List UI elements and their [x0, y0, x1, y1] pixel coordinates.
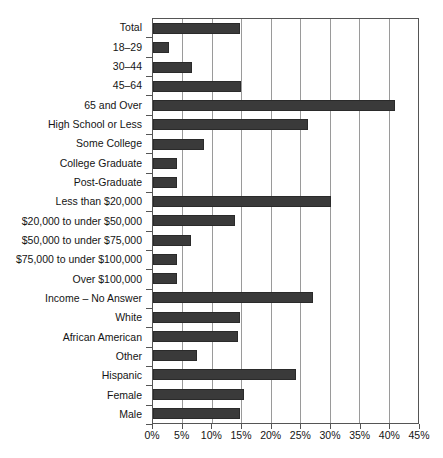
- bar-row: [153, 96, 418, 115]
- bar-row: [153, 77, 418, 96]
- y-axis-label: Some College: [0, 134, 148, 153]
- y-axis-label: Over $100,000: [0, 269, 148, 288]
- x-axis-label: 30%: [319, 430, 340, 441]
- y-axis-tick: [146, 57, 152, 58]
- y-axis-label: Income – No Answer: [0, 289, 148, 308]
- bar-row: [153, 57, 418, 76]
- bar-row: [153, 154, 418, 173]
- y-axis-tick: [146, 95, 152, 96]
- bar-row: [153, 288, 418, 307]
- bar-row: [153, 384, 418, 403]
- y-axis-label: White: [0, 308, 148, 327]
- bar: [153, 81, 241, 92]
- bar-row: [153, 173, 418, 192]
- bar: [153, 158, 177, 169]
- bar-row: [153, 365, 418, 384]
- y-axis-tick: [146, 134, 152, 135]
- bar: [153, 408, 240, 419]
- bar: [153, 119, 308, 130]
- bar: [153, 42, 169, 53]
- y-axis-tick: [146, 250, 152, 251]
- y-axis-tick: [146, 153, 152, 154]
- y-axis-label: Less than $20,000: [0, 192, 148, 211]
- bar: [153, 100, 395, 111]
- bar-row: [153, 134, 418, 153]
- y-axis-tick: [146, 76, 152, 77]
- x-axis-label: 20%: [260, 430, 281, 441]
- y-axis-tick: [146, 115, 152, 116]
- y-axis-label: African American: [0, 327, 148, 346]
- bar-row: [153, 269, 418, 288]
- y-axis-label: $20,000 to under $50,000: [0, 211, 148, 230]
- y-axis-label: Total: [0, 18, 148, 37]
- bar-row: [153, 346, 418, 365]
- bar: [153, 177, 177, 188]
- bar: [153, 273, 177, 284]
- bar-row: [153, 38, 418, 57]
- bar: [153, 235, 191, 246]
- bar: [153, 62, 192, 73]
- bar: [153, 215, 235, 226]
- bar-row: [153, 250, 418, 269]
- bar-row: [153, 192, 418, 211]
- y-axis-label: High School or Less: [0, 115, 148, 134]
- bar-row: [153, 404, 418, 423]
- y-axis-tick: [146, 327, 152, 328]
- y-axis-label: Other: [0, 347, 148, 366]
- y-axis-tick: [146, 347, 152, 348]
- y-axis-label: Hispanic: [0, 366, 148, 385]
- bar-row: [153, 308, 418, 327]
- x-axis-tick-labels: 0%5%10%15%20%25%30%35%40%45%: [0, 430, 443, 446]
- y-axis-category-labels: Total18–2930–4445–6465 and OverHigh Scho…: [0, 18, 148, 424]
- y-axis-label: 18–29: [0, 37, 148, 56]
- y-axis-tick: [146, 192, 152, 193]
- y-axis-label: $50,000 to under $75,000: [0, 231, 148, 250]
- bar: [153, 331, 238, 342]
- y-axis-tick: [146, 211, 152, 212]
- bar-series: [153, 19, 418, 423]
- bar-row: [153, 211, 418, 230]
- y-axis-tick: [146, 308, 152, 309]
- x-axis-label: 15%: [230, 430, 251, 441]
- bar: [153, 254, 177, 265]
- y-axis-label: 30–44: [0, 57, 148, 76]
- x-axis-label: 35%: [349, 430, 370, 441]
- bar: [153, 312, 240, 323]
- horizontal-bar-chart: Total18–2930–4445–6465 and OverHigh Scho…: [0, 0, 443, 458]
- bar-row: [153, 19, 418, 38]
- y-axis-label: Female: [0, 385, 148, 404]
- y-axis-tick: [146, 385, 152, 386]
- y-axis-tick: [146, 289, 152, 290]
- bar: [153, 23, 240, 34]
- y-axis-tick: [146, 405, 152, 406]
- y-axis-label: College Graduate: [0, 153, 148, 172]
- y-axis-tick: [146, 366, 152, 367]
- x-axis-label: 10%: [201, 430, 222, 441]
- y-axis-tick: [146, 37, 152, 38]
- bar-row: [153, 231, 418, 250]
- x-axis-label: 5%: [174, 430, 189, 441]
- bar: [153, 139, 204, 150]
- y-axis-tick: [146, 269, 152, 270]
- x-axis-label: 25%: [290, 430, 311, 441]
- plot-area: [152, 18, 419, 424]
- x-axis-label: 45%: [408, 430, 429, 441]
- y-axis-tick: [146, 173, 152, 174]
- bar: [153, 369, 296, 380]
- x-axis-label: 0%: [144, 430, 159, 441]
- y-axis-label: Post-Graduate: [0, 173, 148, 192]
- x-axis-label: 40%: [379, 430, 400, 441]
- y-axis-label: 45–64: [0, 76, 148, 95]
- bar: [153, 196, 331, 207]
- bar-row: [153, 115, 418, 134]
- bar: [153, 389, 244, 400]
- y-axis-label: $75,000 to under $100,000: [0, 250, 148, 269]
- bar: [153, 292, 313, 303]
- y-axis-tick-marks: [146, 18, 152, 424]
- y-axis-tick: [146, 231, 152, 232]
- bar-row: [153, 327, 418, 346]
- y-axis-label: 65 and Over: [0, 95, 148, 114]
- bar: [153, 350, 197, 361]
- y-axis-label: Male: [0, 405, 148, 424]
